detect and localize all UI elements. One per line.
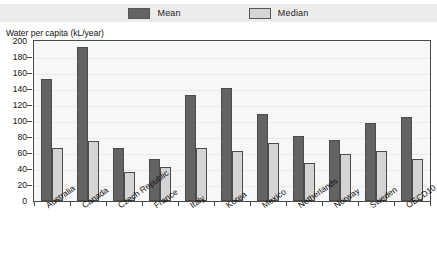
y-tick-mark: [27, 73, 32, 74]
bar-mean: [185, 95, 196, 201]
bar-group: [286, 41, 322, 201]
y-tick-label: 140: [13, 84, 27, 94]
bar-mean: [77, 47, 88, 201]
y-tick-label: 80: [18, 132, 27, 142]
bar-group: [394, 41, 430, 201]
bar-group: [214, 41, 250, 201]
bar-mean: [365, 123, 376, 201]
y-tick-label: 60: [18, 148, 27, 158]
x-axis-labels: AustraliaCanadaCzech RepublicFranceItaly…: [0, 202, 437, 262]
bar-mean: [329, 140, 340, 201]
bar-group: [34, 41, 70, 201]
bar-series-container: [34, 41, 430, 201]
bar-mean: [221, 88, 232, 201]
legend-swatch-mean-icon: [128, 8, 150, 19]
y-tick-label: 160: [13, 68, 27, 78]
y-tick-mark: [27, 169, 32, 170]
y-tick-label: 200: [13, 36, 27, 46]
y-tick-mark: [27, 89, 32, 90]
bar-mean: [41, 79, 52, 201]
y-tick-mark: [27, 57, 32, 58]
bar-group: [322, 41, 358, 201]
y-tick-label: 120: [13, 100, 27, 110]
bar-group: [250, 41, 286, 201]
bar-group: [358, 41, 394, 201]
y-tick-label: 100: [13, 116, 27, 126]
legend-entry-median: Median: [249, 8, 309, 19]
bar-mean: [401, 117, 412, 201]
y-tick-mark: [27, 105, 32, 106]
chart-legend: Mean Median: [0, 4, 437, 22]
bar-group: [178, 41, 214, 201]
y-tick-mark: [27, 153, 32, 154]
y-axis-labels: 200180160140120100806040200: [0, 38, 33, 204]
y-tick-mark: [27, 185, 32, 186]
legend-entry-mean: Mean: [128, 8, 180, 19]
legend-label-mean: Mean: [157, 8, 180, 18]
bar-mean: [113, 148, 124, 201]
y-tick-mark: [27, 121, 32, 122]
bar-mean: [257, 114, 268, 201]
legend-swatch-median-icon: [249, 8, 271, 19]
y-tick-label: 180: [13, 52, 27, 62]
bar-group: [106, 41, 142, 201]
legend-label-median: Median: [278, 8, 309, 18]
bar-group: [70, 41, 106, 201]
y-tick-label: 40: [18, 164, 27, 174]
y-tick-mark: [27, 137, 32, 138]
bar-mean: [293, 136, 304, 201]
y-tick-label: 20: [18, 180, 27, 190]
